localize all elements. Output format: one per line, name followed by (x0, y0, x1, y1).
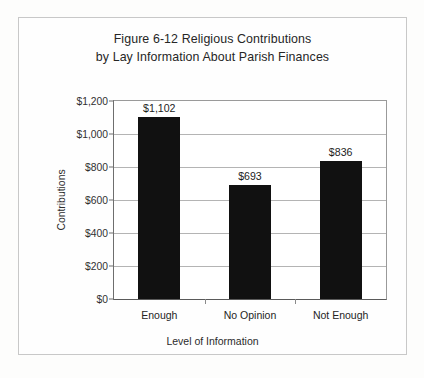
bar: $836 (320, 161, 362, 299)
x-tick-mark (295, 299, 296, 304)
y-tick-label: $400 (85, 228, 108, 239)
bar-chart-figure: Figure 6-12 Religious Contributions by L… (18, 17, 407, 355)
x-axis-title: Level of Information (18, 335, 407, 347)
y-tick-mark (109, 233, 114, 234)
bar: $693 (229, 185, 271, 299)
y-axis-title: Contributions (56, 169, 67, 230)
y-tick-mark (109, 167, 114, 168)
bar-value-label: $1,102 (143, 102, 175, 114)
y-tick-mark (109, 134, 114, 135)
bar-value-label: $693 (238, 170, 262, 182)
y-tick-mark (109, 299, 114, 300)
bar: $1,102 (138, 117, 180, 299)
x-tick-mark (205, 299, 206, 304)
y-tick-mark (109, 101, 114, 102)
y-tick-label: $1,000 (77, 129, 109, 140)
chart-title-line-1: Figure 6-12 Religious Contributions (18, 32, 407, 46)
y-tick-mark (109, 200, 114, 201)
x-tick-label: Enough (141, 309, 177, 321)
chart-title-line-2: by Lay Information About Parish Finances (18, 50, 407, 64)
scanned-page: Figure 6-12 Religious Contributions by L… (0, 0, 424, 378)
x-tick-label: No Opinion (224, 309, 277, 321)
y-tick-mark (109, 266, 114, 267)
y-tick-label: $600 (85, 195, 108, 206)
y-tick-label: $0 (97, 294, 108, 305)
y-tick-label: $1,200 (77, 96, 109, 107)
plot-area: $0$200$400$600$800$1,000$1,200$1,102Enou… (113, 100, 387, 300)
y-tick-label: $800 (85, 162, 108, 173)
y-tick-label: $200 (85, 261, 108, 272)
x-tick-label: Not Enough (313, 309, 368, 321)
bar-value-label: $836 (329, 146, 353, 158)
